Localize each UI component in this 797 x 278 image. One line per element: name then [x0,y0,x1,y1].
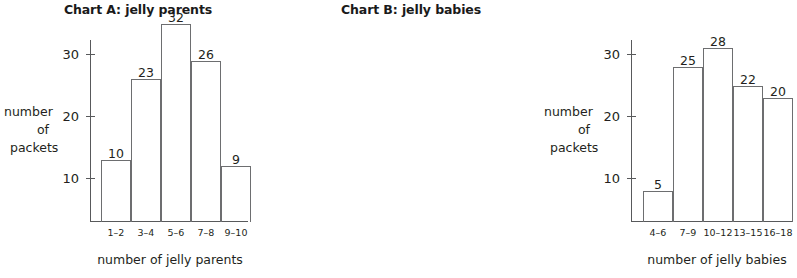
chart-a-bar-value-5: 9 [232,152,240,167]
chart-a-y-tick-20: 20 [86,116,95,117]
chart-b-y-tick-label-30: 30 [603,47,620,62]
chart-b-y-axis-title-line3: packets [544,139,624,157]
chart-b-title: Chart B: jelly babies [280,2,542,17]
chart-a-category-label-3: 5–6 [168,227,185,238]
chart-a-y-tick-30: 30 [86,54,95,55]
chart-b-y-axis-line [631,40,632,222]
chart-a-bar-value-1: 10 [108,146,124,161]
chart-b-bar-3: 28 10–12 [703,48,733,222]
chart-a-bar-3: 32 5–6 [161,24,191,222]
chart-b-plot-area: 10 20 30 5 4–6 25 7–9 28 10–12 22 1 [631,40,793,222]
chart-a-y-axis-line [90,40,91,222]
chart-a-y-tick-label-30: 30 [62,47,79,62]
chart-b-bar-5: 20 16–18 [763,98,793,222]
chart-a-category-label-4: 7–8 [198,227,215,238]
chart-b-bar-4: 22 13–15 [733,86,763,222]
chart-b-y-tick-20: 20 [627,116,636,117]
chart-b-x-axis-title: number of jelly babies [606,252,797,267]
chart-b-category-label-5: 16–18 [764,227,793,238]
chart-a-title: Chart A: jelly parents [6,2,270,17]
chart-b-y-tick-label-20: 20 [603,109,620,124]
chart-a-y-tick-10: 10 [86,178,95,179]
chart-a-y-axis-title-line2: of [4,121,82,139]
chart-a-bar-value-2: 23 [138,65,154,80]
chart-a-bar-5: 9 9–10 [221,166,251,222]
chart-a-bar-2: 23 3–4 [131,79,161,222]
chart-b-bar-2: 25 7–9 [673,67,703,222]
chart-a-bar-value-4: 26 [198,47,214,62]
chart-b-category-label-2: 7–9 [680,227,697,238]
chart-b-category-label-4: 13–15 [734,227,763,238]
chart-b-bar-1: 5 4–6 [643,191,673,222]
chart-a-x-axis-title: number of jelly parents [60,252,280,267]
chart-b-bar-value-1: 5 [654,177,662,192]
chart-a-bar-value-3: 32 [168,10,184,25]
chart-panel-a: Chart A: jelly parents number of packets… [0,0,276,278]
chart-a-plot-area: 10 20 30 10 1–2 23 3–4 32 5–6 26 [90,40,250,222]
chart-b-y-tick-10: 10 [627,178,636,179]
chart-a-y-tick-label-20: 20 [62,109,79,124]
chart-b-y-tick-label-10: 10 [603,171,620,186]
chart-b-bar-value-5: 20 [770,84,786,99]
chart-a-bar-4: 26 7–8 [191,61,221,222]
chart-a-bar-1: 10 1–2 [101,160,131,222]
chart-b-category-label-1: 4–6 [650,227,667,238]
chart-b-bar-value-2: 25 [680,53,696,68]
chart-b-bar-value-3: 28 [710,34,726,49]
chart-b-category-label-3: 10–12 [704,227,733,238]
chart-b-bar-value-4: 22 [740,72,756,87]
chart-b-y-axis-title-line2: of [544,121,624,139]
chart-a-y-tick-label-10: 10 [62,171,79,186]
chart-a-category-label-2: 3–4 [138,227,155,238]
chart-panel-b: Chart B: jelly babies number of packets … [276,0,553,278]
chart-a-y-axis-title-line3: packets [4,139,82,157]
chart-b-y-tick-30: 30 [627,54,636,55]
chart-a-category-label-5: 9–10 [225,227,248,238]
chart-a-category-label-1: 1–2 [108,227,125,238]
